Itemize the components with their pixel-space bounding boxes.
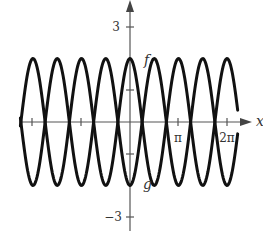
x-tick-label-pi: π	[174, 131, 182, 145]
y-axis-arrow-icon	[126, 0, 134, 12]
y-axis	[126, 0, 134, 231]
x-axis-label: x	[256, 113, 263, 129]
x-tick-label-2pi: 2π	[219, 131, 235, 145]
curve-label-g: g	[143, 176, 152, 192]
x-axis-arrow-icon	[240, 118, 252, 126]
y-tick-label-neg-3: −3	[104, 210, 122, 224]
y-tick-label-3: 3	[112, 20, 120, 34]
function-graph: x π 2π 3 −3 f g	[0, 0, 263, 231]
